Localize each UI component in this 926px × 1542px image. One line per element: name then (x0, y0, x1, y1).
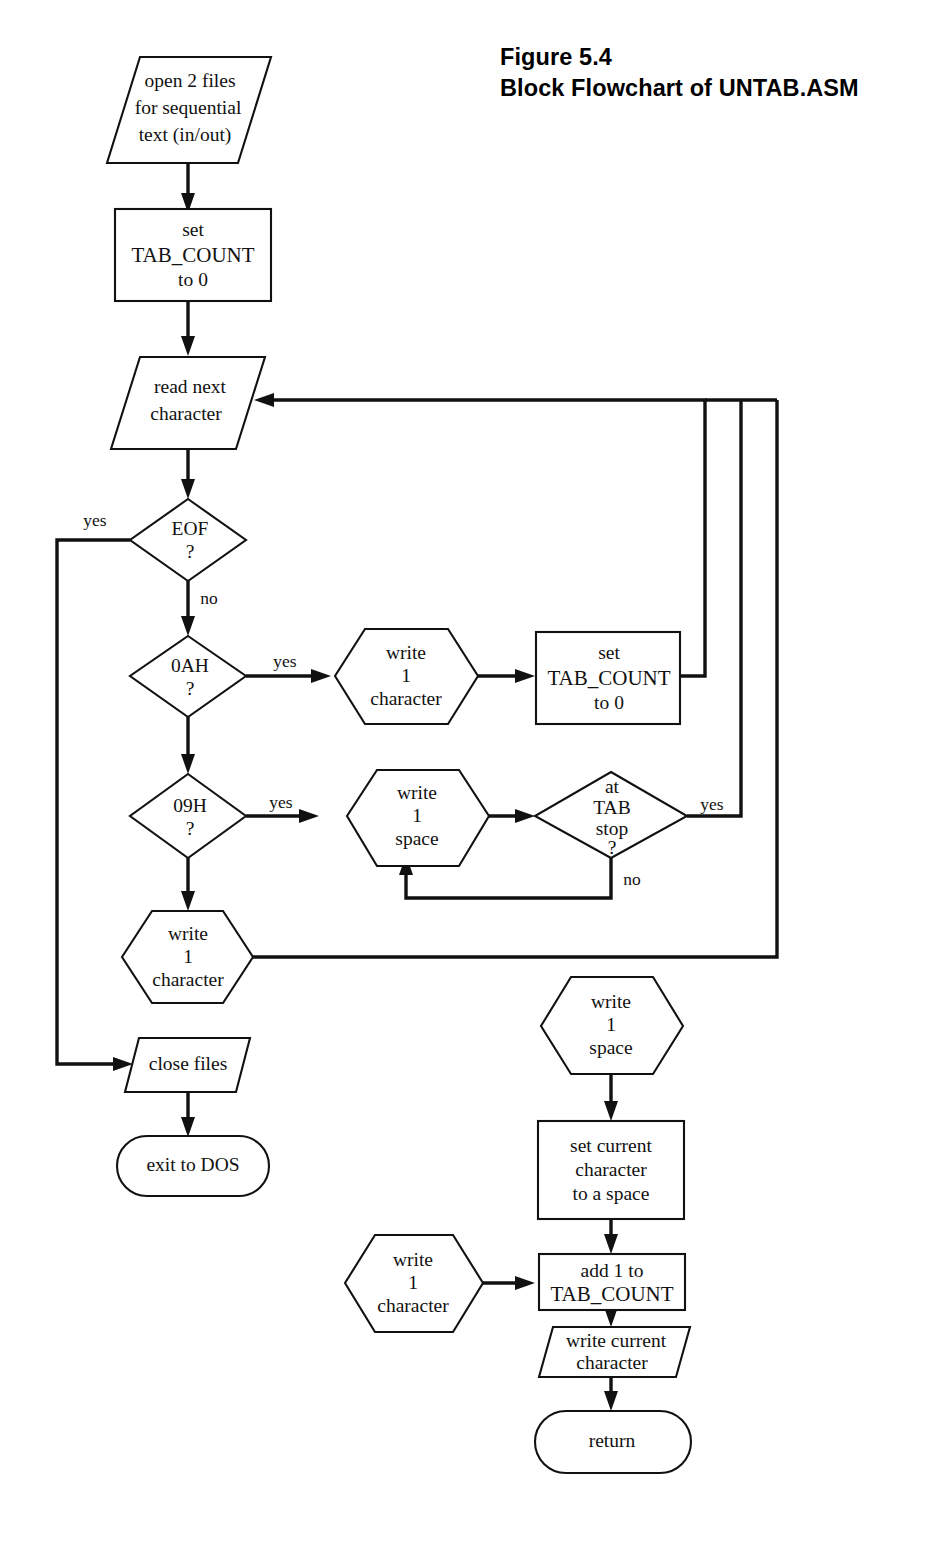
node-write-one-character-main[interactable]: write 1 character (122, 911, 253, 1003)
edge-0ah-no-to-09h (181, 717, 195, 774)
node-return[interactable]: return (535, 1411, 691, 1473)
node-09h-decision[interactable]: 09H ? (130, 774, 246, 858)
node-open-files-line-3: text (in/out) (139, 124, 232, 146)
node-write-one-character-main-line-3: character (152, 969, 224, 990)
node-write-one-character-main-line-1: write (168, 923, 208, 944)
node-write-one-space-sub-line-1: write (591, 991, 631, 1012)
edge-eof-yes-to-closefiles (57, 540, 133, 1071)
node-write-one-character-main-line-2: 1 (183, 946, 193, 967)
node-09h-decision-line-2: ? (186, 818, 195, 839)
node-set-tab-count-zero-top[interactable]: set TAB_COUNT to 0 (115, 209, 271, 301)
edge-closefiles-to-exitdos (181, 1092, 195, 1137)
node-write-one-space-sub[interactable]: write 1 space (541, 977, 683, 1074)
node-09h-decision-line-1: 09H (173, 795, 207, 816)
node-at-tab-stop-line-4: ? (608, 837, 617, 858)
node-eof-decision[interactable]: EOF ? (130, 499, 246, 581)
node-0ah-decision[interactable]: 0AH ? (130, 636, 246, 717)
node-write-one-space-09h-line-2: 1 (412, 805, 422, 826)
node-exit-to-dos-label: exit to DOS (146, 1154, 239, 1175)
edge-label-0ah-yes: yes (273, 651, 297, 671)
node-write-one-space-sub-line-2: 1 (606, 1014, 616, 1035)
node-write-one-character-0ah-line-1: write (386, 642, 426, 663)
node-eof-decision-line-2: ? (186, 541, 195, 562)
node-set-tab-count-zero-mid[interactable]: set TAB_COUNT to 0 (536, 632, 680, 724)
edge-0ah-yes-to-write1char (246, 669, 331, 683)
node-open-files-line-2: for sequential (135, 97, 242, 118)
node-write-one-space-09h-line-1: write (397, 782, 437, 803)
node-open-files[interactable]: open 2 files for sequential text (in/out… (107, 57, 271, 163)
node-write-one-space-sub-line-3: space (589, 1037, 632, 1058)
node-write-one-character-sub-line-3: character (377, 1295, 449, 1316)
node-write-current-character-line-1: write current (566, 1330, 667, 1351)
node-set-tab-count-zero-mid-line-3: to 0 (594, 692, 624, 713)
node-close-files-label: close files (149, 1053, 228, 1074)
node-add-one-to-tab-count-line-2: TAB_COUNT (550, 1282, 673, 1306)
node-add-one-to-tab-count[interactable]: add 1 to TAB_COUNT (539, 1254, 685, 1310)
edge-eof-no-to-0ah (181, 581, 195, 636)
node-read-next-character-line-1: read next (154, 376, 227, 397)
edge-writecurrentchar-to-return (604, 1377, 618, 1411)
node-read-next-character-line-2: character (150, 403, 222, 424)
edge-label-09h-yes: yes (269, 792, 293, 812)
edge-label-attabstop-yes: yes (700, 794, 724, 814)
figure-page: Figure 5.4 Block Flowchart of UNTAB.ASM (0, 0, 926, 1542)
node-eof-decision-line-1: EOF (172, 518, 209, 539)
edge-settabcount-to-readnext (181, 301, 195, 356)
edge-setcurrentchar-to-add1 (604, 1219, 618, 1254)
node-write-one-character-0ah-line-3: character (370, 688, 442, 709)
node-exit-to-dos[interactable]: exit to DOS (117, 1136, 269, 1196)
edge-label-eof-yes: yes (83, 510, 107, 530)
flowchart-canvas: open 2 files for sequential text (in/out… (0, 0, 926, 1542)
node-set-current-character-space-line-3: to a space (573, 1183, 650, 1204)
node-write-one-character-sub-line-1: write (393, 1249, 433, 1270)
node-set-tab-count-zero-top-line-3: to 0 (178, 269, 208, 290)
node-open-files-line-1: open 2 files (145, 70, 236, 91)
edge-write1space-to-attabstop (489, 809, 535, 823)
node-read-next-character[interactable]: read next character (111, 357, 265, 449)
node-at-tab-stop-line-2: TAB (593, 797, 630, 818)
node-set-tab-count-zero-mid-line-2: TAB_COUNT (547, 666, 670, 690)
edge-openfiles-to-settabcount (181, 163, 195, 213)
node-write-one-character-sub[interactable]: write 1 character (345, 1235, 483, 1332)
node-write-one-character-0ah[interactable]: write 1 character (335, 629, 478, 724)
node-add-one-to-tab-count-line-1: add 1 to (581, 1260, 644, 1281)
node-set-tab-count-zero-top-line-2: TAB_COUNT (131, 243, 254, 267)
node-write-one-space-09h-line-3: space (395, 828, 438, 849)
edge-09h-no-to-write1char-main (181, 858, 195, 911)
node-0ah-decision-line-1: 0AH (171, 655, 209, 676)
node-at-tab-stop-decision[interactable]: at TAB stop ? (535, 772, 687, 858)
node-write-one-character-0ah-line-2: 1 (401, 665, 411, 686)
edge-write1char-sub-to-add1 (483, 1276, 535, 1290)
edge-label-eof-no: no (200, 588, 218, 608)
node-write-current-character[interactable]: write current character (539, 1327, 690, 1377)
node-at-tab-stop-line-1: at (605, 776, 620, 797)
edge-write1space-sub-to-setcurrentchar (604, 1074, 618, 1121)
node-set-current-character-space-line-2: character (575, 1159, 647, 1180)
node-set-current-character-space-line-1: set current (570, 1135, 652, 1156)
edge-write1char-to-settabcount-mid (478, 669, 535, 683)
node-set-tab-count-zero-mid-line-1: set (598, 642, 620, 663)
edge-label-attabstop-no: no (623, 869, 641, 889)
node-close-files[interactable]: close files (125, 1038, 250, 1092)
edge-readnext-to-eof (181, 449, 195, 499)
node-write-one-character-sub-line-2: 1 (408, 1272, 418, 1293)
node-write-current-character-line-2: character (576, 1352, 648, 1373)
node-set-current-character-space[interactable]: set current character to a space (538, 1121, 684, 1219)
node-return-label: return (589, 1430, 636, 1451)
node-set-tab-count-zero-top-line-1: set (182, 219, 204, 240)
node-0ah-decision-line-2: ? (186, 678, 195, 699)
node-write-one-space-09h[interactable]: write 1 space (347, 770, 489, 866)
node-at-tab-stop-line-3: stop (596, 818, 629, 839)
edge-attabstop-yes-return (687, 400, 741, 816)
